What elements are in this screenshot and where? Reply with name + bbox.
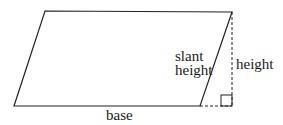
height-label: height	[236, 56, 274, 72]
base-label: base	[106, 107, 133, 123]
parallelogram-diagram: slant height height base	[0, 0, 283, 125]
slant-height-label-line2: height	[175, 62, 213, 78]
right-angle-marker	[221, 95, 232, 106]
